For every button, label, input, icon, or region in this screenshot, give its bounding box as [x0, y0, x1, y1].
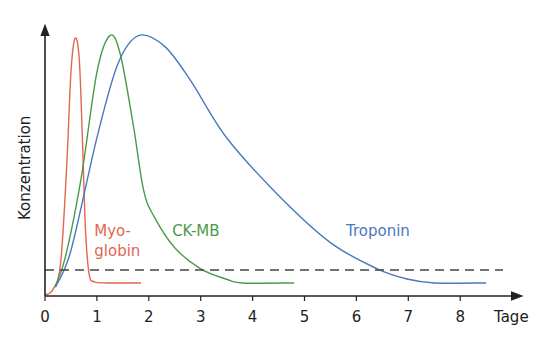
x-tick-label: 7	[404, 308, 414, 326]
x-tick-label: 4	[248, 308, 258, 326]
x-tick-label: 6	[352, 308, 362, 326]
series-label-myoglobin: Myo-globin	[94, 222, 140, 260]
x-tick-label: 5	[300, 308, 310, 326]
x-tick-label: 2	[144, 308, 154, 326]
series-label-ck-mb: CK-MB	[172, 222, 219, 240]
x-tick-label: 0	[40, 308, 50, 326]
chart: 012345678 Tage Konzentration Myo-globinC…	[0, 0, 556, 343]
x-tick-label: 8	[455, 308, 465, 326]
x-tick-label: 3	[196, 308, 206, 326]
x-axis-title: Tage	[493, 308, 529, 326]
series-label-troponin: Troponin	[345, 222, 410, 240]
x-tick-label: 1	[92, 308, 102, 326]
y-axis-title: Konzentration	[16, 116, 34, 220]
